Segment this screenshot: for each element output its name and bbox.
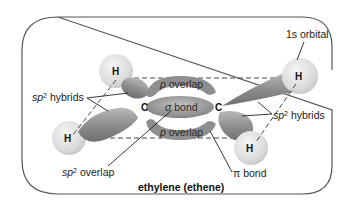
p-overlap-bottom-label: p overlap	[159, 126, 203, 138]
sp2-hybrids-right-leader-top	[258, 102, 272, 114]
one-s-orbital-label: 1s orbital	[286, 28, 329, 40]
pi-symbol: π	[233, 167, 240, 179]
sp2-hybrids-right-label: sp2 hybrids	[273, 109, 325, 121]
pi-bond-label: π bond	[233, 167, 267, 179]
sp-text: sp	[273, 109, 284, 121]
sp2-hybrids-right-leader-bottom	[242, 114, 272, 116]
sp-text: sp	[32, 91, 43, 103]
sigma-bond-label: σ bond	[165, 101, 198, 113]
hydrogen-top-left-label: H	[112, 66, 119, 77]
hydrogen-bottom-left-label: H	[64, 133, 71, 144]
ethylene-orbital-diagram: H H H H C C p overlap σ bond p overlap s…	[0, 0, 363, 221]
hybrids-word: hybrids	[288, 109, 325, 121]
carbon-left-label: C	[141, 102, 148, 113]
hydrogen-bottom-right-label: H	[246, 143, 253, 154]
carbon-right-label: C	[215, 102, 222, 113]
hydrogen-top-right-label: H	[295, 71, 302, 82]
overlap-word: overlap	[77, 166, 115, 178]
molecule-caption: ethylene (ethene)	[138, 181, 224, 193]
p-overlap-top-label: p overlap	[159, 78, 203, 90]
overlap-word: overlap	[166, 126, 204, 138]
sp2-overlap-label: sp2 overlap	[62, 166, 115, 178]
hybrids-word: hybrids	[47, 91, 84, 103]
pi-bond-leader	[210, 131, 232, 172]
one-s-orbital-leader	[297, 42, 304, 60]
sp2-hybrids-left-label: sp2 hybrids	[32, 91, 84, 103]
sp2-hybrids-left-leader-top	[87, 93, 128, 98]
bond-word: bond	[240, 167, 266, 179]
bond-word: bond	[171, 101, 197, 113]
sp2-lobe-bottom-left	[78, 108, 138, 142]
sp-text: sp	[62, 166, 73, 178]
overlap-word: overlap	[166, 78, 204, 90]
sp2-hybrids-left-leader-bottom	[87, 98, 108, 111]
